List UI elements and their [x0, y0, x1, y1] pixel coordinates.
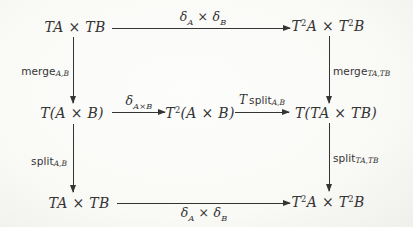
split-op-subscript: A,B: [54, 159, 67, 168]
arrow-label-delta-axb: δA×B: [126, 93, 153, 111]
node-mid-left: T(A × B): [40, 105, 104, 121]
split-op-subscript: TA,TB: [356, 156, 379, 165]
split-op-name: split: [249, 94, 272, 106]
arrow-right-upper: [329, 36, 330, 103]
arrow-left-lower: [73, 124, 74, 192]
arrow-label-merge-left: mergeA,B: [21, 65, 69, 77]
arrow-bottom: [117, 203, 290, 204]
arrowhead-right-icon: [283, 200, 291, 206]
split-op-subscript: A,B: [272, 98, 285, 107]
t-functor-prefix: T: [239, 93, 247, 107]
arrow-label-split-right: splitTA,TB: [333, 152, 379, 164]
merge-op-name: merge: [333, 65, 367, 77]
arrow-label-merge-right: mergeTA,TB: [333, 65, 390, 77]
node-top-right: T2A × T2B: [291, 18, 364, 35]
arrow-label-bottom-delta: δA × δB: [181, 205, 228, 223]
arrow-label-split-left: splitA,B: [31, 155, 67, 167]
split-op-name: split: [333, 152, 356, 164]
arrow-right-lower: [329, 123, 330, 191]
arrowhead-right-icon: [158, 109, 166, 115]
arrow-top: [112, 28, 290, 29]
arrowhead-down-icon: [70, 96, 76, 104]
node-mid-right: T(TA × TB): [295, 105, 377, 121]
node-mid-center: T2(A × B): [165, 105, 234, 122]
merge-op-name: merge: [21, 65, 55, 77]
arrowhead-down-icon: [70, 185, 76, 193]
arrow-label-t-split: TsplitA,B: [239, 93, 285, 107]
arrow-mid-first: [112, 112, 165, 113]
split-op-name: split: [31, 155, 54, 167]
arrowhead-right-icon: [283, 25, 291, 31]
merge-op-subscript: TA,TB: [367, 69, 390, 78]
arrowhead-down-icon: [326, 184, 332, 192]
node-bottom-left: TA × TB: [48, 195, 109, 211]
scanned-diagram-page: TA × TB T2A × T2B T(A × B) T2(A × B) T(T…: [0, 0, 413, 227]
node-top-left: TA × TB: [44, 19, 105, 35]
arrow-left-upper: [73, 37, 74, 103]
merge-op-subscript: A,B: [56, 69, 69, 78]
arrowhead-right-icon: [282, 109, 290, 115]
arrowhead-down-icon: [326, 96, 332, 104]
arrow-label-top-delta: δA × δB: [180, 9, 227, 27]
arrow-mid-second: [235, 112, 289, 113]
node-bottom-right: T2A × T2B: [291, 194, 364, 211]
